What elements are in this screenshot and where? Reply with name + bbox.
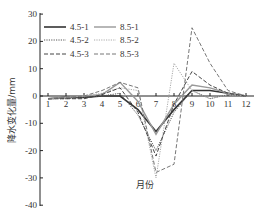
x-tick-label: 9 (190, 99, 195, 109)
y-tick-label: -20 (25, 146, 37, 156)
y-tick-label: -40 (25, 200, 37, 210)
legend: 4.5-18.5-14.5-28.5-24.5-38.5-3 (44, 22, 139, 59)
legend-label: 4.5-1 (70, 22, 89, 32)
series-line-4.5-3 (48, 71, 246, 156)
legend-label: 4.5-3 (70, 49, 89, 59)
x-tick-label: 5 (118, 99, 123, 109)
x-tick-label: 4 (100, 99, 105, 109)
x-tick-label: 12 (242, 99, 251, 109)
x-tick-label: 3 (82, 99, 87, 109)
x-tick-label: 2 (64, 99, 69, 109)
x-tick-label: 11 (224, 99, 233, 109)
legend-label: 8.5-3 (120, 49, 139, 59)
y-tick-label: -30 (25, 173, 37, 183)
y-tick-label: 10 (28, 64, 38, 74)
legend-label: 8.5-1 (120, 22, 139, 32)
y-tick-label: 20 (28, 36, 38, 46)
precipitation-change-chart: 3020100-10-20-30-40 123456789101112 4.5-… (0, 0, 264, 219)
legend-label: 4.5-2 (70, 35, 89, 45)
x-tick-label: 7 (154, 99, 159, 109)
y-tick-label: 30 (28, 9, 38, 19)
x-tick-label: 1 (46, 99, 51, 109)
x-axis-title: 月份 (136, 179, 154, 190)
legend-label: 8.5-2 (120, 35, 139, 45)
y-axis-title: 降水变化量/mm (6, 77, 17, 143)
x-tick-label: 10 (206, 99, 216, 109)
x-axis-ticks: 123456789101112 (46, 93, 251, 109)
series-line-8.5-1 (48, 82, 246, 134)
y-tick-label: 0 (33, 91, 38, 101)
y-tick-label: -10 (25, 118, 37, 128)
